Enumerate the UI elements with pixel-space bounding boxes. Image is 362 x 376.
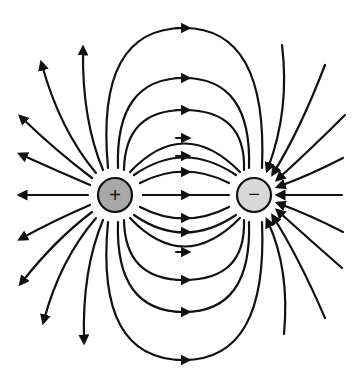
minus-sign: −	[248, 183, 260, 205]
negative-charge: −	[237, 178, 271, 212]
plus-sign: +	[109, 184, 121, 206]
field-lines-canvas: + −	[0, 0, 362, 376]
dipole-diagram: + −	[0, 0, 362, 376]
positive-charge: +	[98, 178, 132, 212]
outgoing-field-lines	[22, 50, 103, 340]
incoming-field-lines	[268, 45, 345, 334]
